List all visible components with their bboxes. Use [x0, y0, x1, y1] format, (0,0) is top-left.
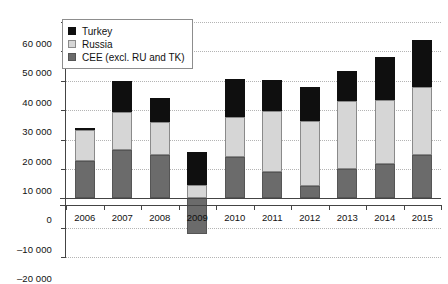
- y-axis-labels: –20 000–10 000010 00020 00030 00040 0005…: [0, 22, 60, 257]
- bar-segment-turkey: [112, 81, 132, 112]
- x-axis-tick-label: 2009: [179, 212, 217, 224]
- bar-segment-russia: [112, 112, 132, 150]
- bar-segment-turkey: [412, 40, 432, 87]
- bar-segment-russia: [262, 111, 282, 172]
- legend-swatch-turkey: [68, 27, 76, 35]
- x-axis-tick-label: 2012: [291, 212, 329, 224]
- x-axis-tick: [291, 205, 292, 210]
- bar-segment-turkey: [75, 128, 95, 131]
- bar-segment-russia: [150, 122, 170, 155]
- bar-segment-cee: [112, 150, 132, 198]
- bar-segment-turkey: [187, 152, 207, 185]
- y-axis-tick-label: 40 000: [22, 98, 52, 108]
- x-axis-tick: [104, 205, 105, 210]
- x-axis-tick-label: 2006: [66, 212, 104, 224]
- bar-segment-turkey: [337, 71, 357, 100]
- legend-label-russia: Russia: [82, 39, 113, 50]
- y-axis-tick-label: 0: [47, 215, 52, 225]
- bar-segment-russia: [187, 185, 207, 198]
- legend-swatch-russia: [68, 40, 76, 48]
- y-axis-tick-label: 50 000: [22, 68, 52, 78]
- bar-segment-cee: [412, 155, 432, 198]
- x-axis-tick-label: 2013: [329, 212, 367, 224]
- legend-item-russia: Russia: [68, 38, 185, 50]
- bar-segment-cee: [150, 155, 170, 198]
- x-axis-tick: [66, 205, 67, 210]
- bar-segment-cee: [225, 157, 245, 199]
- legend-label-turkey: Turkey: [82, 26, 112, 37]
- x-axis-labels: 2006200720082009201020112012201320142015: [66, 212, 441, 226]
- y-axis-tick-label: 60 000: [22, 39, 52, 49]
- y-axis-tick-label: –20 000: [17, 274, 52, 284]
- x-axis-tick-label: 2014: [366, 212, 404, 224]
- x-axis-tick-label: 2010: [216, 212, 254, 224]
- x-axis-tick-label: 2015: [404, 212, 442, 224]
- x-axis-tick: [441, 205, 442, 210]
- y-axis-tick-label: 10 000: [22, 186, 52, 196]
- legend-swatch-cee: [68, 53, 76, 61]
- x-axis-tick: [179, 205, 180, 210]
- zero-baseline: [60, 198, 441, 199]
- x-axis-tick: [366, 205, 367, 210]
- bar-segment-russia: [300, 121, 320, 186]
- chart-legend: Turkey Russia CEE (excl. RU and TK): [62, 19, 193, 69]
- bar-segment-russia: [412, 87, 432, 155]
- x-axis-tick: [216, 205, 217, 210]
- x-axis-tick-label: 2011: [254, 212, 292, 224]
- gridline: [66, 257, 441, 258]
- bar-segment-cee: [75, 161, 95, 199]
- bar-segment-turkey: [150, 98, 170, 122]
- legend-item-turkey: Turkey: [68, 25, 185, 37]
- bar-segment-turkey: [375, 57, 395, 100]
- y-axis-tick-label: 30 000: [22, 127, 52, 137]
- x-axis-ticks: [66, 205, 441, 211]
- x-axis-tick: [141, 205, 142, 210]
- bar-segment-russia: [225, 117, 245, 156]
- x-axis-tick-label: 2007: [104, 212, 142, 224]
- bar-segment-turkey: [300, 87, 320, 121]
- legend-item-cee: CEE (excl. RU and TK): [68, 51, 185, 63]
- bar-segment-russia: [337, 101, 357, 170]
- bar-segment-russia: [375, 100, 395, 164]
- bar-segment-cee: [262, 172, 282, 198]
- x-axis-tick-label: 2008: [141, 212, 179, 224]
- y-axis-tick-label: –10 000: [17, 245, 52, 255]
- bar-segment-cee: [337, 169, 357, 198]
- x-axis-tick: [404, 205, 405, 210]
- x-axis-tick: [329, 205, 330, 210]
- bar-segment-russia: [75, 130, 95, 160]
- bar-segment-turkey: [262, 80, 282, 111]
- y-axis-tick-label: 20 000: [22, 157, 52, 167]
- x-axis-tick: [254, 205, 255, 210]
- bar-segment-turkey: [225, 79, 245, 117]
- bar-segment-cee: [300, 186, 320, 198]
- legend-label-cee: CEE (excl. RU and TK): [82, 52, 185, 63]
- bar-segment-cee: [375, 164, 395, 199]
